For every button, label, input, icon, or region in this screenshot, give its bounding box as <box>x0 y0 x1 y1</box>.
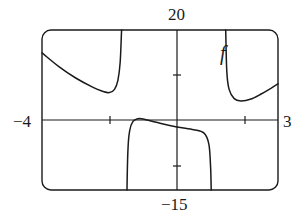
curve-branch-1 <box>42 30 122 93</box>
function-label: f <box>220 42 226 65</box>
x-max-label: 3 <box>283 113 292 130</box>
x-min-label: −4 <box>13 113 31 130</box>
curve-branch-3 <box>226 30 278 101</box>
y-max-label: 20 <box>168 6 185 23</box>
function-curve <box>42 30 278 190</box>
curve-branch-2 <box>127 118 211 190</box>
graph <box>0 0 306 220</box>
plot-frame <box>42 30 278 190</box>
y-min-label: −15 <box>161 196 188 213</box>
